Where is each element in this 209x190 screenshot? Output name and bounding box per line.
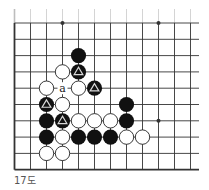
white-stone-disc	[71, 114, 85, 128]
white-stone	[39, 81, 53, 95]
white-stone	[87, 114, 101, 128]
white-stone-disc	[119, 130, 133, 144]
white-stone	[103, 114, 117, 128]
black-stone-disc	[71, 48, 86, 63]
black-stone	[71, 48, 86, 63]
white-stone-disc	[39, 81, 53, 95]
white-stone	[71, 81, 85, 95]
white-stone	[71, 114, 85, 128]
white-stone	[55, 146, 69, 160]
white-stone	[55, 97, 69, 111]
white-stone	[39, 146, 53, 160]
black-stone-disc	[119, 113, 134, 128]
black-stone-marked	[87, 81, 102, 96]
black-stone	[119, 113, 134, 128]
black-stone-disc	[39, 130, 54, 145]
white-stone-disc	[103, 114, 117, 128]
black-stone	[39, 113, 54, 128]
black-stone-disc	[119, 97, 134, 112]
black-stone-marked	[39, 97, 54, 112]
black-stone	[103, 130, 118, 145]
black-stone-marked	[55, 113, 70, 128]
black-stone-marked	[71, 64, 86, 79]
white-stone	[135, 130, 149, 144]
point-labels: a	[58, 82, 68, 95]
go-board-diagram: a	[0, 0, 209, 172]
white-stone	[119, 130, 133, 144]
black-stone-disc	[103, 130, 118, 145]
white-stone-disc	[71, 81, 85, 95]
white-stone-disc	[135, 130, 149, 144]
black-stone-disc	[87, 130, 102, 145]
black-stone	[87, 130, 102, 145]
diagram-caption: 17도	[14, 175, 36, 187]
white-stone-disc	[55, 65, 69, 79]
star-point	[157, 119, 161, 123]
white-stone-disc	[39, 146, 53, 160]
white-stone	[55, 130, 69, 144]
white-stone-disc	[87, 114, 101, 128]
point-label: a	[59, 82, 66, 95]
black-stone	[71, 130, 86, 145]
black-stone-disc	[71, 130, 86, 145]
white-stone-disc	[55, 97, 69, 111]
white-stone-disc	[55, 146, 69, 160]
black-stone-disc	[39, 113, 54, 128]
black-stone	[119, 97, 134, 112]
star-point	[61, 21, 65, 25]
white-stone-disc	[55, 130, 69, 144]
star-point	[157, 21, 161, 25]
white-stone	[55, 65, 69, 79]
black-stone	[39, 130, 54, 145]
